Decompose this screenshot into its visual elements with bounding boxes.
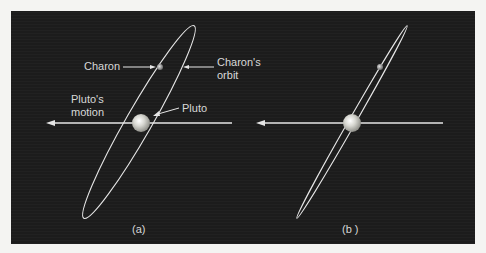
pluto-sphere-a [132, 114, 150, 132]
panel-b-caption: (b ) [342, 223, 359, 236]
panel-b [256, 24, 443, 220]
charon-orbit-label-line2: orbit [217, 69, 238, 82]
pluto-motion-label-line2: motion [71, 106, 104, 119]
panel-a [46, 19, 232, 225]
charon-orbit-label-line1: Charon's [217, 56, 261, 69]
charon-moon-b [377, 64, 383, 70]
panel-a-caption: (a) [132, 223, 145, 236]
charon-orbit-pointer-a [183, 65, 214, 69]
pluto-label: Pluto [182, 102, 207, 115]
charon-label: Charon [84, 60, 120, 73]
pluto-motion-label-line1: Pluto's [71, 93, 104, 106]
charon-moon-a [157, 64, 163, 70]
charon-pointer-a [123, 65, 156, 69]
orbit-diagram [0, 0, 486, 253]
pluto-sphere-b [343, 114, 361, 132]
pluto-pointer-a [153, 108, 179, 116]
